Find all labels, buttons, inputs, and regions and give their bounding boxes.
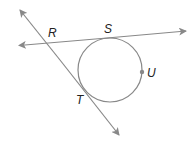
geometry-diagram: R S T U [0, 0, 195, 141]
label-s: S [104, 22, 112, 36]
tangent-line-rs [107, 31, 186, 38]
label-r: R [48, 26, 57, 40]
label-t: T [76, 93, 85, 107]
label-u: U [147, 66, 156, 80]
tangent-line-rt-down [60, 60, 119, 135]
circle [78, 38, 142, 102]
point-u [140, 70, 144, 74]
